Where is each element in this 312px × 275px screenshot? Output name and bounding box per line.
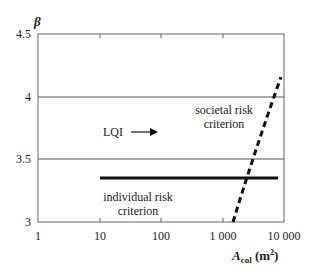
xtick-10: 10 xyxy=(94,229,106,243)
ytick-4-5: 4.5 xyxy=(16,27,31,41)
xtick-1: 1 xyxy=(35,229,41,243)
individual-risk-label-2: criterion xyxy=(118,204,159,218)
x-axis-subscript: col xyxy=(241,255,252,265)
ytick-3-5: 3.5 xyxy=(16,152,31,166)
y-axis-title: β xyxy=(33,14,41,29)
x-axis-unit-close: ) xyxy=(274,248,278,263)
x-axis-symbol: A xyxy=(231,248,241,263)
arrow-right-icon xyxy=(150,128,158,136)
xtick-10000: 10 000 xyxy=(268,229,301,243)
societal-risk-label-2: criterion xyxy=(204,117,245,131)
xtick-100: 100 xyxy=(152,229,170,243)
societal-risk-curve xyxy=(233,77,281,222)
lqi-label: LQI xyxy=(103,125,123,139)
x-axis-unit-open: (m xyxy=(252,248,271,263)
chart: β 4.5 4 3.5 3 1 10 100 1 000 10 000 Acol… xyxy=(0,0,312,275)
individual-risk-label-1: individual risk xyxy=(103,190,173,204)
societal-risk-label-1: societal risk xyxy=(195,103,253,117)
ytick-3: 3 xyxy=(25,215,31,229)
x-axis-title: Acol (m2) xyxy=(231,248,278,265)
x-ticks-top xyxy=(100,34,223,38)
x-ticks-bottom xyxy=(100,218,223,222)
xtick-1000: 1 000 xyxy=(210,229,237,243)
ytick-4: 4 xyxy=(25,90,31,104)
